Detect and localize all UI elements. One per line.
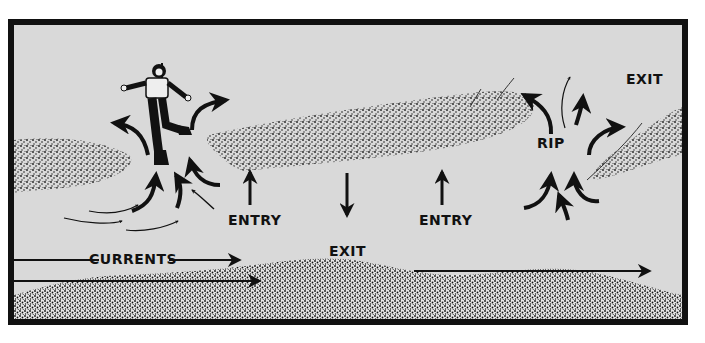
diagram-frame: ENTRY EXIT ENTRY RIP EXIT CURRENTS [8, 19, 688, 325]
entry-label-left: ENTRY [228, 212, 281, 228]
rip-label: RIP [537, 135, 565, 151]
right-reef [593, 107, 682, 180]
shore [14, 258, 682, 319]
currents-label: CURRENTS [89, 251, 177, 267]
diver-illustration [121, 63, 192, 165]
exit-label-center: EXIT [329, 243, 366, 259]
entry-label-right: ENTRY [419, 212, 472, 228]
left-reef [14, 138, 131, 193]
diagram-canvas [14, 25, 682, 319]
exit-label-right: EXIT [626, 71, 663, 87]
center-reef [207, 91, 534, 171]
